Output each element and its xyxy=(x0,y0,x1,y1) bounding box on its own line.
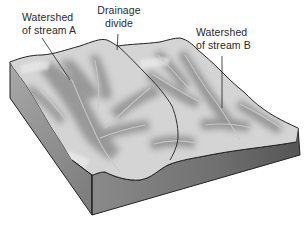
label-watershed-b-line1: Watershed xyxy=(196,26,251,39)
label-watershed-a: Watershed of stream A xyxy=(22,11,76,36)
label-watershed-a-line1: Watershed xyxy=(22,11,76,24)
label-watershed-b-line2: of stream B xyxy=(196,39,251,52)
label-drainage-divide-line1: Drainage xyxy=(96,4,142,17)
watershed-diagram: Watershed of stream A Drainage divide Wa… xyxy=(0,0,307,226)
label-watershed-a-line2: of stream A xyxy=(22,24,76,37)
label-watershed-b: Watershed of stream B xyxy=(196,26,251,51)
label-drainage-divide: Drainage divide xyxy=(96,4,142,29)
label-drainage-divide-line2: divide xyxy=(96,17,142,30)
